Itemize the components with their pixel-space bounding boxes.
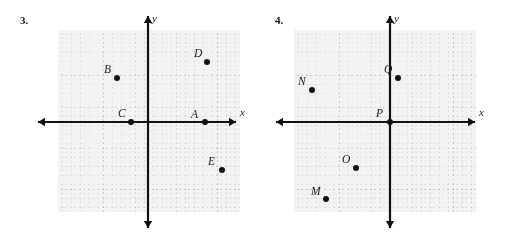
point-E-label: E: [208, 155, 215, 167]
point-B-dot: [114, 75, 120, 81]
problem-4-y-axis-label: y: [394, 12, 399, 24]
point-D-label: D: [194, 47, 202, 59]
problem-3-y-axis-label: y: [152, 12, 157, 24]
point-Q-label: Q: [384, 63, 392, 75]
point-C-label: C: [118, 107, 126, 119]
point-N-dot: [309, 87, 315, 93]
problem-4-x-axis-label: x: [479, 106, 484, 118]
point-Q-dot: [395, 75, 401, 81]
problem-4-number: 4.: [275, 14, 283, 26]
problem-3: 3. x y ABCDE: [0, 0, 255, 236]
point-P-dot: [387, 119, 393, 125]
point-C-dot: [128, 119, 134, 125]
problem-3-x-axis-label: x: [240, 106, 245, 118]
point-D-dot: [204, 59, 210, 65]
point-E-dot: [219, 167, 225, 173]
problem-4-coordinate-plane: [294, 30, 476, 212]
point-A-label: A: [191, 108, 198, 120]
point-A-dot: [202, 119, 208, 125]
point-P-label: P: [376, 107, 383, 119]
problem-3-number: 3.: [20, 14, 28, 26]
point-B-label: B: [104, 63, 111, 75]
point-O-dot: [353, 165, 359, 171]
problem-4: 4. x y MNOPQ: [255, 0, 510, 236]
point-M-dot: [323, 196, 329, 202]
problem-3-coordinate-plane: [58, 30, 240, 212]
point-M-label: M: [311, 185, 321, 197]
point-N-label: N: [298, 75, 306, 87]
point-O-label: O: [342, 153, 350, 165]
worksheet-page: 3. x y ABCDE 4. x y MNOPQ: [0, 0, 511, 236]
